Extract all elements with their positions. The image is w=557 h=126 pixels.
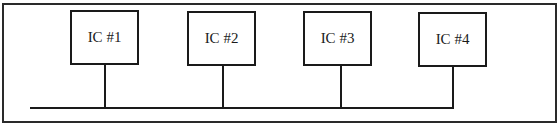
- ic-label-4: IC #4: [436, 31, 470, 48]
- shared-bus-line: [30, 107, 454, 109]
- ic-label-2: IC #2: [205, 30, 239, 47]
- ic-box-1: IC #1: [70, 10, 139, 65]
- ic4-bus-connector: [452, 67, 454, 109]
- ic1-bus-connector: [104, 65, 106, 109]
- ic-label-1: IC #1: [88, 29, 122, 46]
- ic-box-4: IC #4: [418, 12, 487, 67]
- ic-box-2: IC #2: [187, 11, 256, 66]
- ic-label-3: IC #3: [321, 30, 355, 47]
- ic2-bus-connector: [222, 66, 224, 109]
- ic3-bus-connector: [340, 66, 342, 109]
- ic-box-3: IC #3: [303, 11, 372, 66]
